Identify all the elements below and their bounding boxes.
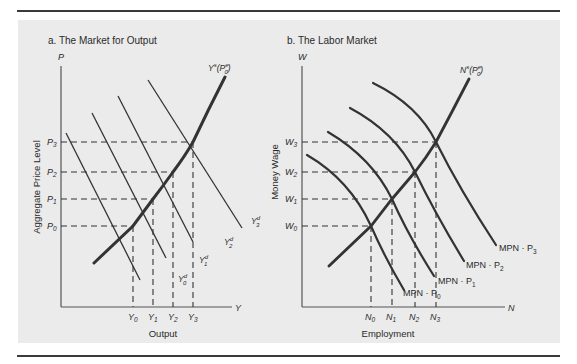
svg-text:P0: P0	[47, 221, 57, 232]
demand-curve-y2	[118, 96, 193, 242]
svg-text:P3: P3	[47, 137, 57, 148]
svg-text:P2: P2	[47, 167, 57, 178]
svg-text:N2: N2	[409, 312, 420, 323]
mpn-p2-curve	[350, 108, 464, 261]
svg-text:N0: N0	[365, 312, 376, 323]
panel-a-x-label: Output	[149, 328, 178, 339]
panel-a-demand-curves	[66, 80, 242, 280]
mpn-p0-curve	[307, 155, 404, 290]
svg-text:W2: W2	[285, 167, 298, 178]
panel-a-y-symbol: P	[58, 52, 64, 62]
panel-b-y-label: Money Wage	[269, 144, 280, 200]
panel-b-x-symbol: N	[508, 303, 515, 313]
panel-a-demand-labels: Yd0 Yd1 Yd2 Yd3	[178, 215, 261, 286]
demand-curve-y1	[92, 113, 166, 258]
svg-text:W1: W1	[285, 194, 298, 205]
panel-a-x-symbol: Y	[235, 303, 242, 313]
svg-text:Y1: Y1	[148, 312, 158, 323]
svg-text:P1: P1	[47, 194, 57, 205]
svg-text:Y2: Y2	[168, 312, 178, 323]
svg-text:MPN · P0: MPN · P0	[403, 288, 441, 300]
svg-text:Yd0: Yd0	[178, 273, 188, 286]
panel-labor-market: b. The Labor Market W N Money Wage Emplo…	[269, 35, 537, 339]
panel-b-guides	[302, 142, 436, 307]
panel-a-y-ticks: P3 P2 P1 P0	[47, 137, 57, 232]
mpn-p1-curve	[328, 132, 434, 276]
panel-b-x-label: Employment	[362, 328, 415, 339]
svg-text:Yd2: Yd2	[224, 236, 234, 249]
panel-a-supply-label: Ys(Pe0)	[208, 62, 231, 75]
svg-text:Yd1: Yd1	[199, 254, 209, 267]
panel-a-y-label: Aggregate Price Level	[31, 140, 42, 233]
svg-text:MPN · P2: MPN · P2	[466, 260, 504, 272]
panel-b-title: b. The Labor Market	[287, 35, 377, 46]
panel-output-market: a. The Market for Output P Y Aggregate P…	[31, 35, 261, 339]
svg-text:Yd3: Yd3	[251, 215, 261, 228]
svg-text:MPN · P3: MPN · P3	[499, 243, 537, 255]
panel-b-demand-labels: MPN · P0 MPN · P1 MPN · P2 MPN · P3	[403, 243, 537, 300]
panel-b-x-ticks: N0 N1 N2 N3	[365, 312, 441, 323]
panel-a-guides	[61, 142, 193, 307]
svg-text:W0: W0	[285, 221, 298, 232]
demand-curve-y3	[148, 80, 242, 228]
figure-canvas: a. The Market for Output P Y Aggregate P…	[0, 0, 577, 364]
panel-b-y-symbol: W	[298, 52, 308, 62]
demand-curve-y0	[66, 133, 140, 280]
panel-a-x-ticks: Y0 Y1 Y2 Y3	[128, 312, 198, 323]
svg-text:N1: N1	[386, 312, 397, 323]
panel-a-title: a. The Market for Output	[48, 35, 157, 46]
panel-b-supply-label: Ns(Pe0)	[460, 64, 483, 77]
svg-text:N3: N3	[430, 312, 441, 323]
svg-text:Y0: Y0	[128, 312, 138, 323]
svg-text:MPN · P1: MPN · P1	[438, 276, 476, 288]
panel-b-y-ticks: W3 W2 W1 W0	[285, 137, 298, 232]
svg-text:Y3: Y3	[188, 312, 198, 323]
svg-text:W3: W3	[285, 137, 298, 148]
